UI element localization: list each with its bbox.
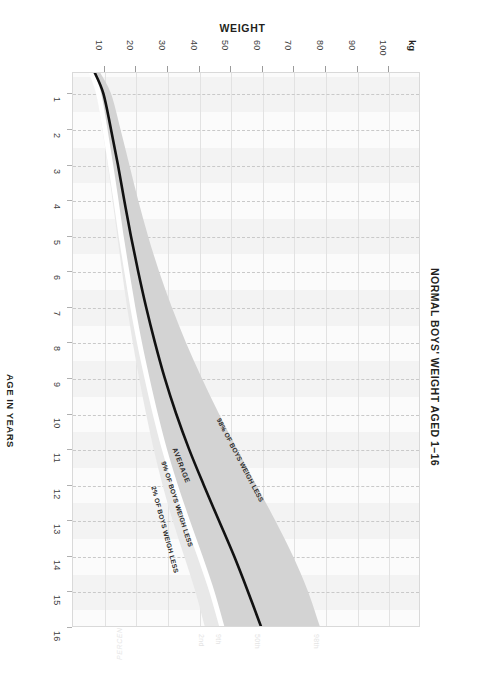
weight-tick-label: 60 xyxy=(252,40,262,51)
annotation-p98: 98% OF BOYS WEIGH LESS xyxy=(215,417,265,503)
weight-unit-label: kg xyxy=(407,40,418,51)
weight-tick-label: 10 xyxy=(94,40,104,51)
age-tick-label: 11 xyxy=(52,453,62,463)
weight-tick-label: 80 xyxy=(315,40,325,51)
plot-area: 2% OF BOYS WEIGH LESS9% OF BOYS WEIGH LE… xyxy=(72,72,420,627)
weight-tick-label: 90 xyxy=(347,40,357,51)
chart-title: NORMAL BOYS' WEIGHT AGED 1–16 xyxy=(429,268,441,466)
weight-tick-label: 40 xyxy=(189,40,199,51)
percentile-scale: 2nd9th50th98th xyxy=(72,628,420,668)
weight-tick-label: 100 xyxy=(378,40,388,56)
weight-axis-title: WEIGHT xyxy=(0,22,485,34)
age-tick-label: 3 xyxy=(52,169,62,174)
age-tick-label: 8 xyxy=(52,346,62,351)
age-tick-label: 4 xyxy=(52,204,62,209)
weight-tick-label: 20 xyxy=(125,40,135,51)
age-tick-label: 10 xyxy=(52,418,62,429)
percentile-tick-label: 50th xyxy=(254,634,261,649)
age-tick-label: 14 xyxy=(52,560,62,571)
weight-tick-label: 30 xyxy=(157,40,167,51)
age-tick-label: 2 xyxy=(52,133,62,138)
age-axis-title: AGE IN YEARS xyxy=(5,374,16,448)
weight-tick-label: 70 xyxy=(283,40,293,51)
percentile-tick-label: 98th xyxy=(313,634,320,649)
age-tick-label: 16 xyxy=(52,631,62,642)
weight-scale: 102030405060708090100 xyxy=(72,40,420,72)
age-tick-label: 13 xyxy=(52,524,62,535)
age-scale: 12345678910111213141516 xyxy=(40,72,72,627)
age-tick-label: 9 xyxy=(52,382,62,387)
age-tick-label: 15 xyxy=(52,595,62,606)
percentile-tick-label: 2nd xyxy=(198,634,205,647)
annotation-average: AVERAGE xyxy=(171,446,191,483)
weight-tick-label: 50 xyxy=(220,40,230,51)
age-tick-label: 12 xyxy=(52,489,62,500)
age-tick-label: 6 xyxy=(52,275,62,280)
age-tick-label: 5 xyxy=(52,240,62,245)
age-tick-label: 7 xyxy=(52,311,62,316)
annotation-layer: 2% OF BOYS WEIGH LESS9% OF BOYS WEIGH LE… xyxy=(73,73,419,626)
age-tick-label: 1 xyxy=(52,97,62,102)
percentile-tick-label: 9th xyxy=(215,634,222,645)
